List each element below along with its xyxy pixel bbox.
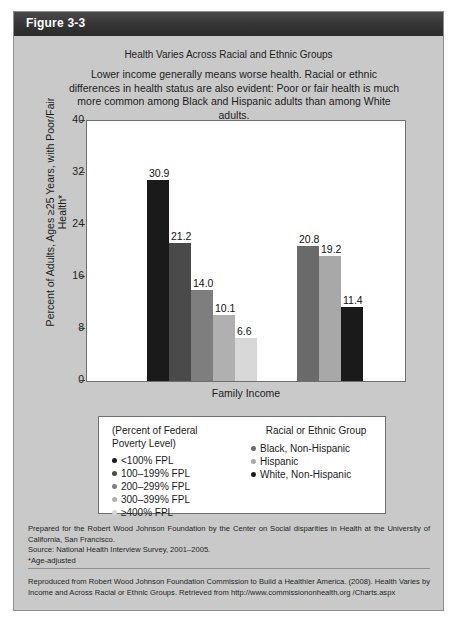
legend-item-label: Hispanic [260, 455, 298, 468]
y-axis-ticks: 0816243240 [52, 120, 84, 382]
legend-column-income: (Percent of Federal Poverty Level) <100%… [112, 425, 242, 519]
legend-swatch-icon [112, 458, 117, 463]
bar [169, 243, 191, 381]
footnote-source: Source: National Health Interview Survey… [28, 545, 430, 556]
legend-item-income[interactable]: <100% FPL [112, 454, 242, 467]
plot-area: 30.921.214.010.16.620.819.211.4 [86, 120, 406, 382]
legend-item-race[interactable]: Hispanic [251, 455, 381, 468]
legend-item-race[interactable]: White, Non-Hispanic [251, 468, 381, 481]
footnote-age-adjusted: *Age-adjusted [28, 556, 430, 567]
bar-value-label: 20.8 [299, 233, 319, 245]
legend-swatch-icon [112, 510, 117, 515]
legend-item-income[interactable]: 300–399% FPL [112, 493, 242, 506]
footer-divider [28, 568, 430, 569]
figure-number-label: Figure 3-3 [26, 16, 85, 30]
legend-item-label: White, Non-Hispanic [260, 468, 351, 481]
x-axis-title: Family Income [86, 387, 406, 399]
bar [319, 256, 341, 381]
bar-value-label: 21.2 [171, 230, 191, 242]
y-tick-label: 0 [58, 373, 84, 385]
legend-swatch-icon [112, 497, 117, 502]
y-tick-label: 24 [58, 217, 84, 229]
bar-value-label: 19.2 [321, 243, 341, 255]
legend-box: (Percent of Federal Poverty Level) <100%… [98, 416, 386, 514]
chart-subtitle: Lower income generally means worse healt… [64, 68, 404, 122]
legend-item-label: 100–199% FPL [121, 467, 190, 480]
footnote-prepared-by: Prepared for the Robert Wood Johnson Fou… [28, 524, 430, 545]
bar [297, 246, 319, 381]
bar [147, 180, 169, 381]
legend-race-heading: Racial or Ethnic Group [251, 425, 381, 438]
bar-value-label: 30.9 [149, 167, 169, 179]
legend-income-heading-line1: (Percent of Federal [112, 425, 198, 436]
legend-item-income[interactable]: 100–199% FPL [112, 467, 242, 480]
bar [191, 290, 213, 381]
y-tick-label: 8 [58, 321, 84, 333]
y-tick-label: 40 [58, 113, 84, 125]
legend-item-race[interactable]: Black, Non-Hispanic [251, 442, 381, 455]
bar-value-label: 11.4 [343, 294, 363, 306]
legend-income-heading-line2: Poverty Level) [112, 438, 176, 449]
legend-item-label: 300–399% FPL [121, 493, 190, 506]
y-tick-label: 16 [58, 269, 84, 281]
legend-item-income[interactable]: 200–299% FPL [112, 480, 242, 493]
figure-header-bar: Figure 3-3 [14, 12, 443, 36]
legend-race-items: Black, Non-HispanicHispanicWhite, Non-Hi… [251, 442, 381, 481]
legend-swatch-icon [112, 484, 117, 489]
legend-item-label: Black, Non-Hispanic [260, 442, 350, 455]
figure-card: Figure 3-3 Health Varies Across Racial a… [13, 11, 444, 611]
legend-item-label: <100% FPL [121, 454, 174, 467]
legend-income-heading: (Percent of Federal Poverty Level) [112, 425, 242, 450]
legend-swatch-icon [251, 459, 256, 464]
bar [341, 307, 363, 381]
chart-title: Health Varies Across Racial and Ethnic G… [14, 49, 443, 60]
bars-layer: 30.921.214.010.16.620.819.211.4 [87, 121, 405, 381]
bar-value-label: 6.6 [237, 325, 252, 337]
footnote-block: Prepared for the Robert Wood Johnson Fou… [28, 524, 430, 566]
plot-wrapper: Percent of Adults, Ages ≥25 Years, with … [14, 115, 443, 405]
bar [235, 338, 257, 381]
legend-column-race: Racial or Ethnic Group Black, Non-Hispan… [251, 425, 381, 481]
legend-item-label: 200–299% FPL [121, 480, 190, 493]
bar-value-label: 10.1 [215, 302, 235, 314]
legend-income-items: <100% FPL100–199% FPL200–299% FPL300–399… [112, 454, 242, 519]
legend-swatch-icon [251, 472, 256, 477]
bar [213, 315, 235, 381]
reproduction-notice: Reproduced from Robert Wood Johnson Foun… [28, 577, 430, 598]
legend-swatch-icon [251, 446, 256, 451]
y-tick-label: 32 [58, 165, 84, 177]
bar-value-label: 14.0 [193, 277, 213, 289]
legend-item-label: ≥400% FPL [121, 506, 173, 519]
legend-item-income[interactable]: ≥400% FPL [112, 506, 242, 519]
legend-swatch-icon [112, 471, 117, 476]
